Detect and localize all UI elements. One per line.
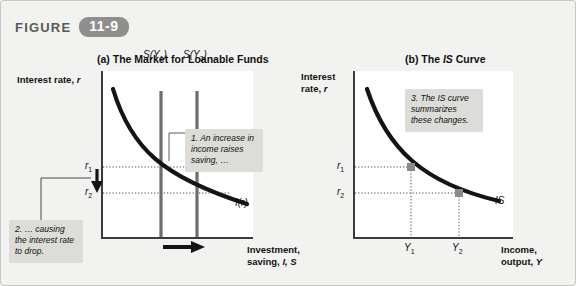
panel-b-y2-text: Y [452,242,459,253]
panel-b-r2-sub: 2 [340,192,344,199]
panel-b-x-axis-label-line2-pre: output, [501,256,536,267]
panel-b-y2-sub: 2 [459,248,463,255]
panel-b-title: (b) The IS Curve [405,53,486,65]
panel-a-x-axis-label: Investment,saving, I, S [247,244,300,268]
panel-a-saving-curve-2-label: S(Y2) [183,49,207,62]
panel-a-y-axis-label-italic: r [77,74,81,85]
panel-a-y-axis-label-pre: Interest rate, [17,74,77,85]
panel-b-title-italic: IS [443,53,453,65]
panel-a-saving-curve-1-label: S(Y1) [143,49,167,62]
panel-a-s1-close: ) [164,49,167,60]
panel-a-r1-tick-label: r1 [85,160,92,173]
panel-b-y1-tick-label: Y1 [404,242,415,255]
panel-a-vertical-axis [101,71,103,239]
panel-a-x-axis-label-line1: Investment, [247,244,300,255]
figure-container: FIGURE 11-9 (a) The Market for Loanable … [0,0,576,286]
panel-b-is-curve-label: IS [495,195,504,206]
panel-a-r2-sub: 2 [88,192,92,199]
callout-3: 3. The IS curve summarizes these changes… [405,89,483,132]
panel-b-equilibrium-marker-2 [455,189,463,197]
panel-a-s1-text: S(Y [143,49,160,60]
panel-a-r1-sub: 1 [88,166,92,173]
panel-b-y-axis-label: Interestrate, r [301,71,335,95]
panel-a-s2-text: S(Y [183,49,200,60]
figure-header: FIGURE 11-9 [15,17,129,37]
panel-b-vertical-axis [353,71,355,239]
panel-a-callout1-leader [169,133,185,161]
panel-b-x-axis-label-italic: Y [536,256,542,267]
panel-a-x-axis-label-italic: I, S [282,256,296,267]
panel-b-title-pre: (b) The [405,53,443,65]
panel-a-horizontal-axis [101,237,253,239]
panel-b-x-axis-label-line1: Income, [501,244,537,255]
figure-word-label: FIGURE [15,20,71,35]
panel-a-s2-close: ) [204,49,207,60]
panel-b-title-post: Curve [453,53,486,65]
panel-b-r1-sub: 1 [340,166,344,173]
panel-a-x-axis-label-line2-pre: saving, [247,256,282,267]
callout-1: 1. An increase in income raises saving, … [185,129,263,172]
panel-a-investment-curve-label: I(r) [235,197,248,208]
panel-b-r2-tick-label: r2 [337,186,344,199]
panel-a-r2-tick-label: r2 [85,186,92,199]
panel-b-horizontal-axis [353,237,513,239]
panel-b-y1-text: Y [404,242,411,253]
panel-b-y-axis-label-italic: r [324,83,328,94]
callout-2: 2. … causing the interest rate to drop. [9,220,83,263]
panel-a-shift-arrow-head [191,241,205,253]
panel-b-y-axis-label-line2-pre: rate, [301,83,324,94]
panel-b-r1-tick-label: r1 [337,160,344,173]
panel-b-x-axis-label: Income,output, Y [501,244,542,268]
panel-b-y2-tick-label: Y2 [452,242,463,255]
panel-a-y-axis-label: Interest rate, r [17,74,80,86]
panel-b-y-axis-label-line1: Interest [301,71,335,82]
panel-b-y1-sub: 1 [411,248,415,255]
panel-b-equilibrium-marker-1 [407,163,415,171]
figure-number-badge: 11-9 [79,17,128,37]
panel-a-callout2-leader [41,178,91,220]
